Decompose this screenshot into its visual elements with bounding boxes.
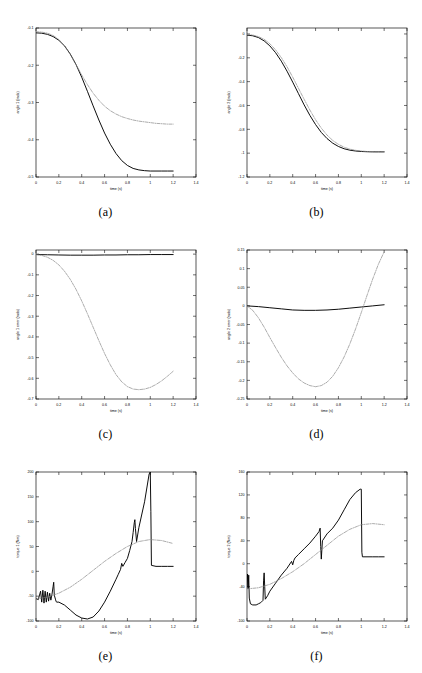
y-tick-label: -0.5	[27, 356, 33, 360]
x-tick-label: 1.4	[193, 403, 198, 407]
y-axis-label: angle 1 error (rads)	[16, 309, 20, 340]
y-tick-label: -0.6	[238, 104, 244, 108]
y-tick-label: 80	[240, 516, 244, 520]
panel-e: 00.20.40.60.811.21.4200150100500-50-100t…	[3, 462, 208, 670]
y-tick-label: -0.4	[238, 80, 244, 84]
figure-row-2: 00.20.40.60.811.21.40-0.1-0.2-0.3-0.4-0.…	[0, 240, 422, 448]
x-tick-label: 0.6	[102, 403, 107, 407]
y-tick-label: -0.2	[27, 64, 33, 68]
x-tick-label: 0.4	[290, 181, 295, 185]
y-tick-label: 0	[31, 252, 33, 256]
caption-d: (d)	[309, 427, 324, 442]
x-tick-label: 1.4	[404, 403, 409, 407]
x-axis-label: time (s)	[321, 187, 333, 191]
y-tick-label: 0.1	[239, 267, 244, 271]
plot-d: 00.20.40.60.811.21.40.150.10.050-0.05-0.…	[217, 240, 417, 425]
y-tick-label: -0.1	[238, 341, 244, 345]
chart-svg-a: 00.20.40.60.811.21.4-0.1-0.2-0.3-0.4-0.5…	[6, 18, 206, 203]
y-tick-label: -0.3	[27, 315, 33, 319]
x-tick-label: 0.6	[313, 181, 318, 185]
chart-svg-f: 00.20.40.60.811.21.416012080400-40-100ti…	[217, 462, 417, 647]
y-axis-label: angle 2 error (rads)	[227, 309, 231, 340]
panel-d: 00.20.40.60.811.21.40.150.10.050-0.05-0.…	[214, 240, 419, 448]
series-line-actual	[36, 255, 173, 256]
series-line-desired	[247, 524, 384, 589]
chart-svg-d: 00.20.40.60.811.21.40.150.10.050-0.05-0.…	[217, 240, 417, 425]
y-tick-label: -0.5	[27, 175, 33, 179]
chart-svg-c: 00.20.40.60.811.21.40-0.1-0.2-0.3-0.4-0.…	[6, 240, 206, 425]
y-tick-label: 0	[31, 570, 33, 574]
x-tick-label: 1.2	[381, 625, 386, 629]
caption-e: (e)	[99, 649, 113, 664]
y-tick-label: 120	[238, 493, 244, 497]
x-tick-label: 0.2	[267, 403, 272, 407]
x-tick-label: 0.4	[290, 625, 295, 629]
series-line-actual	[247, 489, 384, 605]
series-line-actual	[36, 33, 173, 171]
y-tick-label: 40	[240, 539, 244, 543]
x-tick-label: 0.8	[335, 625, 340, 629]
y-tick-label: -0.2	[27, 294, 33, 298]
y-tick-label: -0.15	[236, 360, 244, 364]
figure-row-1: 00.20.40.60.811.21.4-0.1-0.2-0.3-0.4-0.5…	[0, 18, 422, 226]
plot-frame	[247, 28, 407, 177]
y-tick-label: -0.8	[238, 128, 244, 132]
x-tick-label: 0	[246, 181, 248, 185]
y-tick-label: -0.2	[238, 56, 244, 60]
y-tick-label: -0.2	[238, 379, 244, 383]
x-tick-label: 1.2	[170, 625, 175, 629]
plot-frame	[36, 250, 196, 399]
chart-svg-e: 00.20.40.60.811.21.4200150100500-50-100t…	[6, 462, 206, 647]
x-tick-label: 1.2	[381, 181, 386, 185]
x-tick-label: 0.8	[124, 181, 129, 185]
y-tick-label: 0.05	[237, 286, 244, 290]
y-tick-label: -40	[239, 585, 244, 589]
x-tick-label: 0.2	[267, 625, 272, 629]
x-tick-label: 0.2	[267, 181, 272, 185]
x-tick-label: 0.6	[102, 181, 107, 185]
y-axis-label: angle 2 (rads)	[227, 91, 231, 113]
series-line-actual	[247, 35, 384, 152]
x-tick-label: 1	[149, 625, 151, 629]
panel-c: 00.20.40.60.811.21.40-0.1-0.2-0.3-0.4-0.…	[3, 240, 208, 448]
x-tick-label: 0.8	[124, 625, 129, 629]
x-tick-label: 0.4	[290, 403, 295, 407]
plot-f: 00.20.40.60.811.21.416012080400-40-100ti…	[217, 462, 417, 647]
y-tick-label: -0.4	[27, 138, 33, 142]
y-tick-label: -0.25	[236, 397, 244, 401]
plot-e: 00.20.40.60.811.21.4200150100500-50-100t…	[6, 462, 206, 647]
x-tick-label: 0.2	[56, 181, 61, 185]
x-tick-label: 0.6	[102, 625, 107, 629]
y-tick-label: 150	[27, 495, 33, 499]
x-tick-label: 0.8	[335, 181, 340, 185]
caption-f: (f)	[310, 649, 323, 664]
x-tick-label: 0.8	[335, 403, 340, 407]
plot-b: 00.20.40.60.811.21.40-0.2-0.4-0.6-0.8-1-…	[217, 18, 417, 203]
y-tick-label: -0.6	[27, 377, 33, 381]
plot-c: 00.20.40.60.811.21.40-0.1-0.2-0.3-0.4-0.…	[6, 240, 206, 425]
plot-a: 00.20.40.60.811.21.4-0.1-0.2-0.3-0.4-0.5…	[6, 18, 206, 203]
figure-container: 00.20.40.60.811.21.4-0.1-0.2-0.3-0.4-0.5…	[0, 18, 422, 673]
x-tick-label: 0.2	[56, 625, 61, 629]
plot-frame	[247, 250, 407, 399]
x-tick-label: 0	[35, 403, 37, 407]
caption-b: (b)	[309, 205, 324, 220]
y-tick-label: 160	[238, 470, 244, 474]
x-tick-label: 1	[149, 403, 151, 407]
x-tick-label: 1.2	[381, 403, 386, 407]
series-line-actual	[36, 472, 173, 619]
y-axis-label: angle 1 (rads)	[16, 91, 20, 113]
x-tick-label: 0	[35, 181, 37, 185]
y-tick-label: 0	[242, 32, 244, 36]
x-tick-label: 1.4	[193, 181, 198, 185]
panel-b: 00.20.40.60.811.21.40-0.2-0.4-0.6-0.8-1-…	[214, 18, 419, 226]
x-tick-label: 1.2	[170, 403, 175, 407]
x-tick-label: 1.4	[404, 181, 409, 185]
y-tick-label: -1	[241, 151, 244, 155]
x-tick-label: 0	[246, 625, 248, 629]
panel-a: 00.20.40.60.811.21.4-0.1-0.2-0.3-0.4-0.5…	[3, 18, 208, 226]
panel-f: 00.20.40.60.811.21.416012080400-40-100ti…	[214, 462, 419, 670]
y-tick-label: -0.7	[27, 397, 33, 401]
plot-frame	[36, 472, 196, 621]
figure-row-3: 00.20.40.60.811.21.4200150100500-50-100t…	[0, 462, 422, 670]
